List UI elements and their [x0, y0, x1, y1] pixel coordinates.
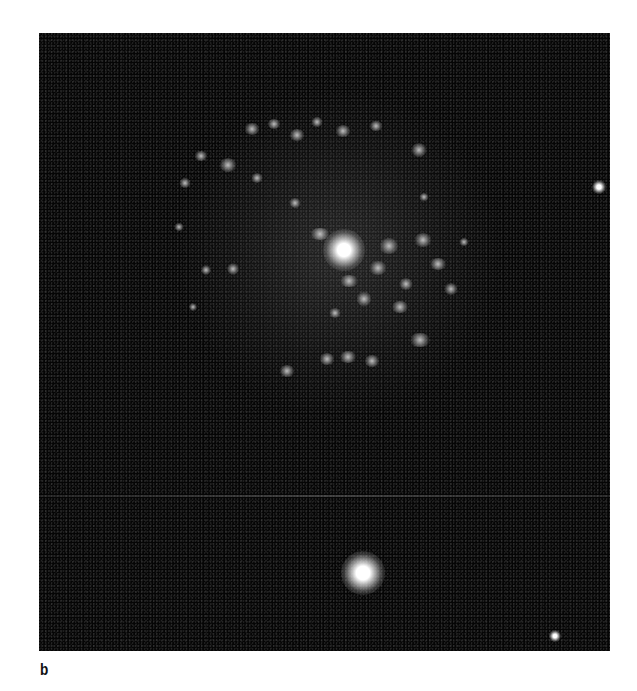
panel-label: b [40, 660, 48, 680]
foreground-star [341, 551, 385, 595]
point-source-bottom-right [549, 630, 561, 642]
detector-artifact-stripe [39, 495, 610, 497]
astronomical-image-panel [39, 33, 610, 651]
galaxy-nucleus [323, 229, 365, 271]
point-source-right [592, 180, 606, 194]
